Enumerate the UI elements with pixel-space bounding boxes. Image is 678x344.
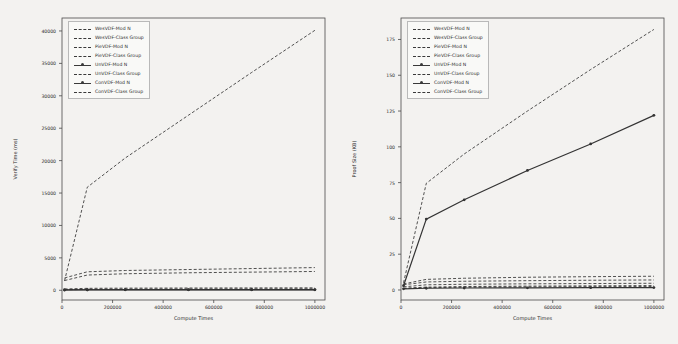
legend-item-label: UnVDF-Class Group [434,70,480,78]
legend-line-sample-icon [74,61,91,69]
series-marker [526,286,529,289]
legend-item-label: WesVDF-Class Group [434,34,483,42]
legend-item: UnVDF-Class Group [71,69,147,78]
legend-item: ConVDF-Mod N [410,78,486,87]
y-tick-label: 10000 [0,223,56,228]
y-tick-label: 15000 [0,191,56,196]
y-tick-label: 25000 [0,126,56,131]
legend-item-label: ConVDF-Class Group [434,88,482,96]
legend-item: ConVDF-Class Group [410,87,486,96]
legend-item-label: UnVDF-Mod N [95,61,127,69]
legend-item: UnVDF-Mod N [71,60,147,69]
y-tick-label: 50 [339,216,395,221]
legend-item-label: PieVDF-Class Group [434,52,480,60]
x-tick-label: 400000 [154,305,172,310]
legend-line-sample-icon [74,52,91,60]
legend-line-sample-icon [413,34,430,42]
y-tick-label: 75 [339,180,395,185]
legend-item-label: ConVDF-Class Group [95,88,143,96]
series-marker [86,289,89,292]
y-tick-label: 35000 [0,61,56,66]
legend-item: PieVDF-Mod N [71,42,147,51]
legend-line-sample-icon [413,25,430,33]
legend-item: UnVDF-Mod N [410,60,486,69]
series-marker [589,286,592,289]
series-marker [187,288,190,291]
y-tick-label: 30000 [0,93,56,98]
series-marker [425,218,428,221]
legend-line-sample-icon [74,79,91,87]
chart-legend: WesVDF-Mod NWesVDF-Class GroupPieVDF-Mod… [407,21,489,99]
series-marker [463,198,466,201]
legend-item-label: UnVDF-Class Group [95,70,141,78]
legend-item: ConVDF-Class Group [71,87,147,96]
x-axis-label: Compute Times [513,315,552,321]
legend-line-sample-icon [413,52,430,60]
x-tick-label: 800000 [256,305,274,310]
legend-item-label: WesVDF-Mod N [434,25,470,33]
legend-line-sample-icon [74,34,91,42]
series-marker [463,287,466,290]
legend-line-sample-icon [413,88,430,96]
legend-item: PieVDF-Class Group [410,51,486,60]
legend-line-sample-icon [413,70,430,78]
series-marker [425,287,428,290]
x-tick-label: 600000 [544,305,562,310]
series-marker [652,286,655,289]
y-tick-label: 0 [0,288,56,293]
y-tick-label: 40000 [0,28,56,33]
legend-item: WesVDF-Mod N [71,24,147,33]
x-tick-label: 200000 [443,305,461,310]
legend-line-sample-icon [74,43,91,51]
legend-line-sample-icon [74,88,91,96]
legend-line-sample-icon [413,61,430,69]
y-tick-label: 20000 [0,158,56,163]
y-axis-label: Verify Time (ms) [12,139,18,180]
series-marker [526,169,529,172]
y-axis-label: Proof Size (KB) [351,141,357,178]
y-tick-label: 175 [339,37,395,42]
series-marker [250,288,253,291]
legend-item: UnVDF-Class Group [410,69,486,78]
y-tick-label: 150 [339,73,395,78]
series-marker [313,288,316,291]
series-marker [652,114,655,117]
y-tick-label: 125 [339,109,395,114]
legend-item: PieVDF-Class Group [71,51,147,60]
legend-item-label: WesVDF-Class Group [95,34,144,42]
y-tick-label: 100 [339,144,395,149]
legend-item-label: ConVDF-Mod N [434,79,469,87]
series-line-5 [65,271,315,280]
x-tick-label: 0 [61,305,64,310]
legend-item-label: ConVDF-Mod N [95,79,130,87]
y-tick-label: 5000 [0,255,56,260]
series-line-6 [404,115,654,285]
legend-item-label: PieVDF-Class Group [95,52,141,60]
y-tick-label: 0 [339,287,395,292]
legend-line-sample-icon [74,70,91,78]
x-tick-label: 600000 [205,305,223,310]
x-tick-label: 400000 [493,305,511,310]
series-marker [402,287,405,290]
x-tick-label: 0 [400,305,403,310]
chart-legend: WesVDF-Mod NWesVDF-Class GroupPieVDF-Mod… [68,21,150,99]
legend-line-sample-icon [74,25,91,33]
series-marker [124,288,127,291]
chart-panel-verify-time: 0200000400000600000800000100000005000100… [0,0,339,344]
x-tick-label: 1000000 [644,305,664,310]
x-tick-label: 1000000 [305,305,325,310]
legend-item: WesVDF-Mod N [410,24,486,33]
series-marker [589,143,592,146]
legend-line-sample-icon [413,79,430,87]
x-axis-label: Compute Times [174,315,213,321]
legend-item-label: UnVDF-Mod N [434,61,466,69]
x-tick-label: 800000 [595,305,613,310]
chart-panel-proof-size: 0200000400000600000800000100000002550751… [339,0,678,344]
y-tick-label: 25 [339,252,395,257]
legend-item-label: WesVDF-Mod N [95,25,131,33]
legend-item-label: PieVDF-Mod N [95,43,128,51]
legend-item-label: PieVDF-Mod N [434,43,467,51]
legend-item: ConVDF-Mod N [71,78,147,87]
x-tick-label: 200000 [104,305,122,310]
figure-container: 0200000400000600000800000100000005000100… [0,0,678,344]
